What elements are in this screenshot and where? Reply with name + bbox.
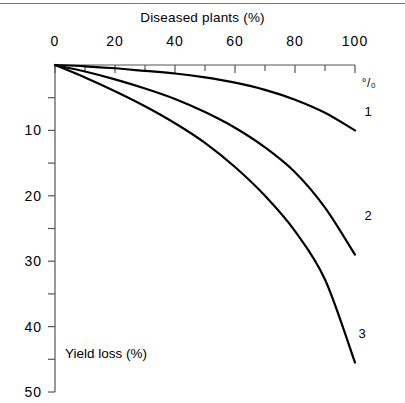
data-curves-group	[55, 65, 355, 363]
curve-label-3: 3	[358, 326, 365, 341]
curve-label-1: 1	[364, 103, 371, 118]
curve-3	[55, 65, 355, 363]
y-axis-ticks	[48, 98, 55, 392]
curve-label-2: 2	[364, 208, 371, 223]
percent-unit-symbol: °/₀	[362, 76, 377, 90]
chart-container: Diseased plants (%) 020406080100 1020304…	[0, 0, 405, 403]
axes-group	[48, 65, 355, 392]
plot-area	[0, 0, 405, 403]
curve-2	[55, 65, 355, 255]
yield-loss-axis-label: Yield loss (%)	[65, 345, 147, 360]
